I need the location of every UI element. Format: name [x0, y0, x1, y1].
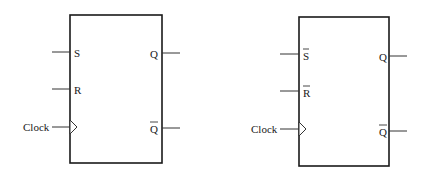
clock-label: Clock	[251, 123, 278, 135]
q-output-label: Q	[150, 48, 158, 60]
q-output-label: Q	[379, 51, 387, 63]
s-bar-input-label: S	[303, 50, 309, 62]
s-input-label: S	[74, 47, 80, 59]
r-input-label: R	[74, 84, 82, 96]
clock-label: Clock	[23, 121, 50, 133]
q-bar-output-label: Q	[150, 123, 158, 135]
diagram-canvas: S R Clock Q Q S R Clock Q Q	[0, 0, 424, 179]
flipflop-body	[70, 15, 162, 163]
sr-flipflop-left: S R Clock Q Q	[23, 15, 180, 163]
q-bar-output-label: Q	[379, 126, 387, 138]
clock-triangle-icon	[299, 122, 306, 136]
r-bar-input-label: R	[303, 87, 311, 99]
clock-triangle-icon	[70, 120, 77, 134]
flipflop-body	[299, 17, 389, 166]
sr-flipflop-right: S R Clock Q Q	[251, 17, 407, 166]
